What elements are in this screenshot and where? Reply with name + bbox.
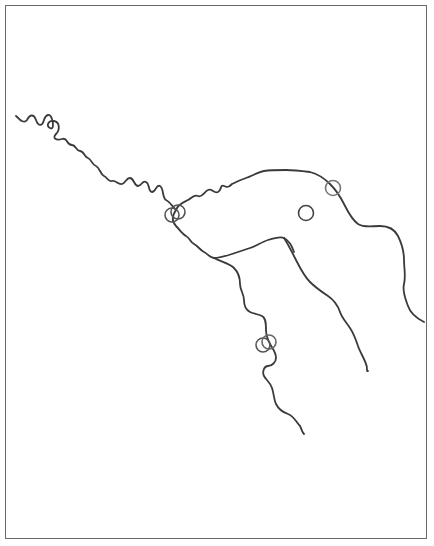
- rivers-layer: [16, 115, 424, 434]
- middle-tributary: [284, 238, 368, 371]
- sites-layer: [165, 181, 341, 353]
- main-river-upper-meanders: [16, 115, 176, 210]
- site-inland-marker-icon: [299, 206, 314, 221]
- southern-branch: [214, 258, 304, 434]
- river-map: [0, 0, 434, 546]
- main-river-north-loop: [176, 170, 424, 322]
- main-river-south-loop: [173, 210, 294, 258]
